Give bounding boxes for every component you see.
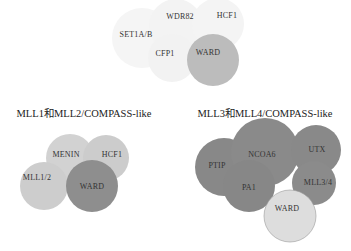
complex-diagram: SET1A/B WDR82 HCF1 CFP1 WARD MLL1和MLL2/C… bbox=[0, 0, 351, 251]
label-hcf1-left: HCF1 bbox=[102, 150, 122, 159]
label-pa1: PA1 bbox=[242, 183, 256, 192]
right-cluster-title: MLL3和MLL4/COMPASS-like bbox=[197, 108, 332, 119]
left-cluster: MLL1和MLL2/COMPASS-like MENIN HCF1 MLL1/2… bbox=[16, 108, 151, 212]
node-ward-right bbox=[264, 190, 316, 242]
label-utx: UTX bbox=[308, 145, 325, 154]
node-mll12 bbox=[20, 162, 68, 210]
label-menin: MENIN bbox=[52, 150, 79, 159]
label-ward-right: WARD bbox=[275, 204, 299, 213]
node-ward-top bbox=[187, 34, 239, 86]
label-set1ab: SET1A/B bbox=[120, 30, 153, 39]
label-cfp1: CFP1 bbox=[155, 49, 174, 58]
label-ptip: PTIP bbox=[208, 161, 226, 170]
top-cluster: SET1A/B WDR82 HCF1 CFP1 WARD bbox=[112, 0, 244, 86]
label-hcf1-top: HCF1 bbox=[217, 11, 237, 20]
label-mll34: MLL3/4 bbox=[304, 178, 332, 187]
label-ward-left: WARD bbox=[80, 182, 104, 191]
label-ncoa6: NCOA6 bbox=[248, 150, 276, 159]
label-mll12: MLL1/2 bbox=[23, 173, 51, 182]
left-cluster-title: MLL1和MLL2/COMPASS-like bbox=[16, 108, 151, 119]
right-cluster: MLL3和MLL4/COMPASS-like PTIP NCOA6 UTX ML… bbox=[195, 108, 341, 242]
label-ward-top: WARD bbox=[196, 48, 220, 57]
label-wdr82: WDR82 bbox=[166, 12, 194, 21]
